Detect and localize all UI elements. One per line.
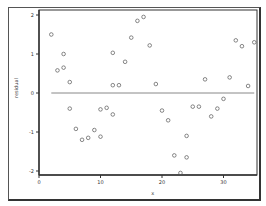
data-point-marker bbox=[234, 39, 238, 43]
data-point-marker bbox=[173, 154, 177, 158]
y-tick-label: 2 bbox=[31, 12, 34, 18]
data-point-marker bbox=[185, 156, 189, 160]
data-point-marker bbox=[136, 19, 140, 23]
data-point-marker bbox=[99, 108, 103, 112]
data-point-marker bbox=[185, 134, 189, 138]
data-point-marker bbox=[99, 135, 103, 139]
data-point-marker bbox=[111, 83, 115, 87]
data-point-marker bbox=[117, 83, 121, 87]
data-point-marker bbox=[123, 60, 127, 64]
y-tick-label: 1 bbox=[31, 51, 34, 57]
data-point-marker bbox=[62, 52, 66, 56]
y-axis-title: residual bbox=[13, 78, 19, 98]
data-point-marker bbox=[86, 136, 90, 140]
data-point-marker bbox=[68, 107, 72, 111]
data-point-marker bbox=[203, 78, 207, 82]
data-point-marker bbox=[142, 15, 146, 19]
x-tick-label: 0 bbox=[37, 179, 40, 185]
data-point-marker bbox=[209, 115, 213, 119]
data-point-marker bbox=[93, 128, 97, 132]
data-point-marker bbox=[105, 106, 109, 110]
data-point-marker bbox=[74, 127, 78, 131]
data-point-marker bbox=[166, 119, 170, 123]
data-point-marker bbox=[179, 171, 183, 175]
data-point-marker bbox=[191, 105, 195, 109]
x-tick-label: 30 bbox=[220, 179, 226, 185]
data-point-marker bbox=[56, 69, 60, 73]
data-point-marker bbox=[160, 109, 164, 113]
x-axis-title: x bbox=[151, 190, 154, 196]
data-point-marker bbox=[240, 44, 244, 48]
data-point-marker bbox=[111, 113, 115, 117]
data-point-marker bbox=[62, 66, 66, 70]
data-point-marker bbox=[216, 107, 220, 111]
data-point-marker bbox=[154, 82, 158, 86]
y-tick-label: -2 bbox=[29, 168, 34, 174]
data-point-marker bbox=[50, 33, 54, 37]
x-tick-label: 20 bbox=[159, 179, 165, 185]
y-tick-label: -1 bbox=[29, 129, 34, 135]
y-tick-label: 0 bbox=[31, 90, 34, 96]
x-tick-label: 10 bbox=[97, 179, 103, 185]
data-point-marker bbox=[197, 105, 201, 109]
data-point-marker bbox=[80, 138, 84, 142]
data-point-marker bbox=[111, 51, 115, 55]
data-point-marker bbox=[148, 44, 152, 48]
data-point-marker bbox=[228, 76, 232, 80]
residual-scatter-plot: -2-10120102030xresidual bbox=[0, 0, 266, 206]
data-point-marker bbox=[246, 84, 250, 88]
data-point-marker bbox=[68, 80, 72, 84]
data-point-marker bbox=[129, 36, 133, 40]
data-point-marker bbox=[252, 41, 256, 45]
data-point-marker bbox=[222, 97, 226, 101]
